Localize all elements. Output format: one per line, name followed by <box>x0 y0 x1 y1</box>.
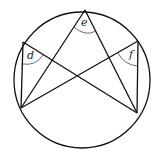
chord-leftupper-bottomright <box>23 42 137 113</box>
circle-diagram: e d f <box>0 0 160 151</box>
label-d: d <box>27 49 34 62</box>
angle-arc-f <box>118 53 138 66</box>
chord-right-vertical <box>137 41 138 113</box>
chord-left-vertical <box>21 42 23 108</box>
label-f: f <box>128 48 135 61</box>
diagram-canvas: e d f <box>0 0 160 151</box>
label-e: e <box>81 16 88 29</box>
